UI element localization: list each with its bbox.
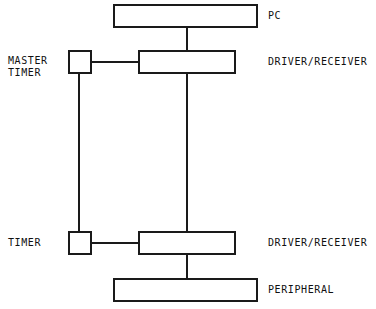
node-master-timer[interactable]	[68, 50, 92, 74]
diagram-canvas: MASTER TIMER TIMER PC DRIVER/RECEIVER DR…	[0, 0, 376, 309]
wire-driver-bus	[186, 73, 188, 232]
label-timer: TIMER	[8, 237, 41, 249]
node-timer[interactable]	[68, 231, 92, 255]
label-driver-receiver-bottom: DRIVER/RECEIVER	[268, 237, 367, 249]
wire-pc-to-driver-top	[186, 27, 188, 51]
node-pc[interactable]	[113, 4, 258, 28]
wire-master-timer-to-driver-top	[91, 61, 139, 63]
node-peripheral[interactable]	[113, 278, 258, 302]
node-driver-receiver-top[interactable]	[138, 50, 236, 74]
label-pc: PC	[268, 10, 281, 22]
label-master-timer-line2: TIMER	[8, 67, 41, 79]
wire-timer-bus	[78, 73, 80, 232]
label-master-timer-line1: MASTER	[8, 55, 48, 67]
label-driver-receiver-top: DRIVER/RECEIVER	[268, 56, 367, 68]
label-peripheral: PERIPHERAL	[268, 284, 334, 296]
wire-timer-to-driver-bottom	[91, 242, 139, 244]
node-driver-receiver-bottom[interactable]	[138, 231, 236, 255]
wire-driver-bottom-to-peripheral	[186, 254, 188, 279]
